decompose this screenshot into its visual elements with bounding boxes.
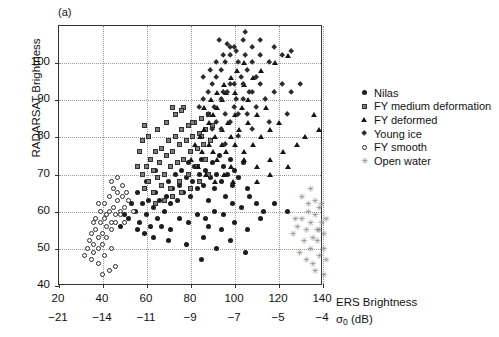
data-point-nilas [195, 212, 200, 217]
data-point-nilas [153, 168, 158, 173]
data-point-young-ice [197, 105, 201, 109]
legend-item-fy-medium-deformation[interactable]: FY medium deformation [358, 100, 491, 114]
data-point-nilas [212, 186, 217, 191]
x-tick-label-secondary: −5 [258, 311, 298, 323]
data-point-young-ice [225, 90, 229, 94]
data-point-nilas [217, 153, 222, 158]
x-tick-label: 120 [258, 292, 298, 304]
data-point-fy-medium-deformation [184, 138, 189, 143]
data-point-fy-medium-deformation [140, 138, 145, 143]
data-point-fy-medium-deformation [164, 153, 169, 158]
data-point-fy-smooth [120, 194, 125, 199]
data-point-young-ice [223, 142, 227, 146]
legend: NilasFY medium deformationFY deformedYou… [358, 86, 491, 168]
panel-label: (a) [58, 6, 71, 18]
data-point-open-water: ✳ [302, 227, 308, 233]
data-point-nilas [199, 157, 204, 162]
data-point-young-ice [267, 120, 271, 124]
x-tick-label: 40 [82, 292, 122, 304]
data-point-nilas [203, 168, 208, 173]
data-point-fy-medium-deformation [170, 149, 175, 154]
data-point-young-ice [212, 105, 216, 109]
legend-item-nilas[interactable]: Nilas [358, 86, 491, 100]
data-point-fy-deformed [294, 142, 300, 147]
asterisk-icon: ✳ [358, 158, 370, 164]
data-point-young-ice [245, 112, 249, 116]
data-point-fy-medium-deformation [168, 164, 173, 169]
data-point-fy-deformed [254, 112, 260, 117]
data-point-open-water: ✳ [298, 216, 304, 222]
data-point-nilas [195, 186, 200, 191]
data-point-fy-medium-deformation [175, 160, 180, 165]
data-point-fy-smooth [96, 201, 101, 206]
gridline-vertical [147, 26, 148, 284]
y-tick-mark [55, 137, 59, 138]
data-point-fy-medium-deformation [162, 198, 167, 203]
x-tick-label-secondary: −21 [38, 311, 78, 323]
plot-area: ✳✳✳✳✳✳✳✳✳✳✳✳✳✳✳✳✳✳✳✳✳✳✳✳✳✳✳✳✳✳✳ [58, 25, 322, 285]
data-point-fy-deformed [228, 75, 234, 80]
data-point-fy-smooth [109, 179, 114, 184]
data-point-fy-deformed [267, 127, 273, 132]
y-tick-mark [55, 249, 59, 250]
data-point-fy-smooth [115, 190, 120, 195]
data-point-fy-smooth [109, 227, 114, 232]
data-point-nilas [239, 205, 244, 210]
data-point-fy-deformed [210, 112, 216, 117]
data-point-fy-medium-deformation [179, 190, 184, 195]
data-point-fy-medium-deformation [153, 149, 158, 154]
data-point-nilas [245, 227, 250, 232]
data-point-nilas [157, 198, 162, 203]
data-point-nilas [164, 194, 169, 199]
gridline-horizontal [59, 175, 321, 176]
data-point-fy-smooth [124, 190, 129, 195]
data-point-nilas [166, 179, 171, 184]
data-point-fy-medium-deformation [179, 127, 184, 132]
data-point-nilas [137, 220, 142, 225]
data-point-fy-deformed [199, 149, 205, 154]
data-point-fy-smooth [113, 212, 118, 217]
data-point-young-ice [254, 75, 258, 79]
data-point-fy-medium-deformation [170, 194, 175, 199]
data-point-fy-smooth [96, 235, 101, 240]
data-point-fy-smooth [82, 253, 87, 258]
data-point-young-ice [258, 38, 262, 42]
data-point-nilas [228, 157, 233, 162]
data-point-young-ice [214, 75, 218, 79]
gridline-vertical [279, 26, 280, 284]
data-point-fy-medium-deformation [195, 146, 200, 151]
data-point-nilas [245, 186, 250, 191]
data-point-fy-smooth [104, 212, 109, 217]
data-point-young-ice [250, 90, 254, 94]
legend-item-fy-smooth[interactable]: FY smooth [358, 140, 491, 154]
legend-item-fy-deformed[interactable]: FY deformed [358, 113, 491, 127]
data-point-fy-medium-deformation [210, 123, 215, 128]
data-point-open-water: ✳ [289, 231, 295, 237]
data-point-fy-deformed [214, 105, 220, 110]
data-point-fy-deformed [241, 157, 247, 162]
data-point-fy-medium-deformation [170, 105, 175, 110]
data-point-nilas [175, 198, 180, 203]
data-point-fy-deformed [210, 149, 216, 154]
data-point-young-ice [250, 127, 254, 131]
data-point-young-ice [219, 127, 223, 131]
data-point-fy-medium-deformation [181, 157, 186, 162]
data-point-open-water: ✳ [313, 238, 319, 244]
data-point-open-water: ✳ [316, 253, 322, 259]
data-point-nilas [219, 227, 224, 232]
data-point-fy-deformed [267, 157, 273, 162]
data-point-nilas [221, 212, 226, 217]
data-point-open-water: ✳ [294, 224, 300, 230]
data-point-fy-deformed [201, 105, 207, 110]
legend-item-young-ice[interactable]: Young ice [358, 127, 491, 141]
data-point-young-ice [228, 45, 232, 49]
legend-item-open-water[interactable]: ✳Open water [358, 154, 491, 168]
data-point-young-ice [214, 120, 218, 124]
data-point-young-ice [243, 30, 247, 34]
data-point-young-ice [289, 49, 293, 53]
data-point-open-water: ✳ [307, 220, 313, 226]
data-point-nilas [210, 160, 215, 165]
data-point-fy-deformed [250, 75, 256, 80]
data-point-open-water: ✳ [311, 198, 317, 204]
x-tick-mark [191, 284, 192, 288]
